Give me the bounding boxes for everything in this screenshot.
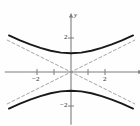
axes-layer [5, 14, 140, 125]
x-tick-label: 2 [103, 76, 107, 83]
y-axis-arrowhead [69, 14, 73, 18]
graph-canvas [0, 0, 140, 126]
x-tick-label: −2 [32, 76, 39, 83]
hyperbola-figure: −222−2xy [0, 0, 140, 126]
y-tick-label: 2 [64, 34, 68, 41]
y-tick-label: −2 [60, 102, 67, 109]
y-axis-label: y [74, 12, 77, 19]
x-axis-arrowhead [138, 70, 140, 74]
